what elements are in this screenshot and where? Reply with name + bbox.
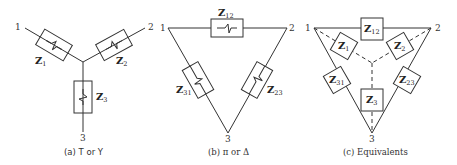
z1-label: Z1: [35, 55, 46, 68]
impedance-z3: [74, 81, 92, 113]
panel-equivalents: 1 2 3 Z12 Z1 Z2 Z31 Z23 Z3 (c) Equivalen…: [305, 18, 441, 157]
z3-label: Z3: [96, 91, 107, 104]
caption-c: (c) Equivalents: [343, 147, 408, 157]
impedance-z2: [96, 29, 133, 60]
node-1-label: 1: [15, 22, 21, 32]
z23-label: Z23: [267, 84, 283, 97]
node-2-label: 2: [148, 22, 154, 32]
node-1-label: 1: [305, 23, 311, 33]
caption-b: (b) π or Δ: [208, 147, 249, 157]
node-1-label: 1: [160, 23, 166, 33]
panel-delta-network: 1 2 3 Z12 Z31 Z23 (b) π or Δ: [160, 7, 295, 157]
z2-label: Z2: [116, 55, 127, 68]
z31-label: Z31: [176, 84, 192, 97]
node-3-label: 3: [80, 133, 86, 143]
node-2-label: 2: [435, 23, 441, 33]
node-3-label: 3: [225, 134, 231, 144]
panel-y-network: 1 2 3 Z1 Z2 Z3 (a) T or Y: [15, 22, 154, 157]
node-2-label: 2: [289, 23, 295, 33]
impedance-z12: [211, 19, 243, 37]
caption-a: (a) T or Y: [64, 147, 104, 157]
node-3-label: 3: [369, 134, 375, 144]
network-diagram: 1 2 3 Z1 Z2 Z3 (a) T or Y: [0, 0, 457, 165]
z12-label: Z12: [218, 7, 234, 20]
